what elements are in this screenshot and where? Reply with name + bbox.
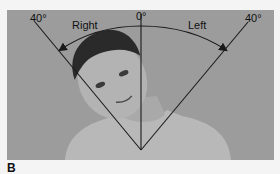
direction-label-left: Left [188, 20, 206, 31]
right-40-line [35, 22, 141, 150]
direction-label-right: Right [72, 20, 98, 31]
angle-label-0: 0° [136, 11, 147, 22]
angle-label-left-40: 40° [30, 13, 47, 24]
angle-label-right-40: 40° [245, 13, 262, 24]
arrow-left [141, 26, 226, 50]
panel-label: B [7, 161, 16, 174]
left-40-line [141, 22, 248, 150]
angle-diagram [0, 0, 280, 174]
